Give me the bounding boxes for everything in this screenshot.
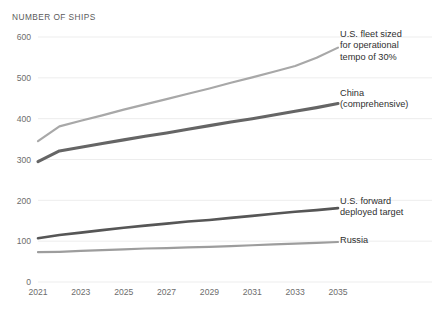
- x-tick-label-2023: 2023: [71, 287, 90, 297]
- series-label-us-fleet-line2: for operational: [340, 40, 402, 51]
- series-label-us-forward-deployed: U.S. forward deployed target: [340, 196, 403, 219]
- y-axis-tick-labels: 0100200300400500600: [17, 32, 32, 287]
- y-tick-label-600: 600: [17, 32, 32, 42]
- y-tick-label-100: 100: [17, 236, 32, 246]
- series-line-2: [38, 208, 338, 238]
- series-label-us-fleet-line3: tempo of 30%: [340, 52, 402, 63]
- x-tick-label-2027: 2027: [157, 287, 176, 297]
- series-label-china-line2: (comprehensive): [340, 99, 408, 110]
- series-label-us-fwd-line1: U.S. forward: [340, 196, 403, 207]
- series-label-us-fleet-line1: U.S. fleet sized: [340, 29, 402, 40]
- x-axis-tick-labels: 20212023202520272029203120332035: [28, 287, 347, 297]
- x-tick-label-2031: 2031: [243, 287, 262, 297]
- y-tick-label-200: 200: [17, 196, 32, 206]
- series-line-1: [38, 104, 338, 162]
- series-label-china-line1: China: [340, 88, 408, 99]
- chart-container: NUMBER OF SHIPS 0100200300400500600 2021…: [0, 0, 432, 310]
- y-tick-label-500: 500: [17, 73, 32, 83]
- x-tick-label-2021: 2021: [28, 287, 47, 297]
- x-tick-label-2033: 2033: [286, 287, 305, 297]
- series-label-china: China (comprehensive): [340, 88, 408, 111]
- x-tick-label-2035: 2035: [328, 287, 347, 297]
- series-label-russia: Russia: [340, 235, 368, 246]
- x-tick-label-2025: 2025: [114, 287, 133, 297]
- x-tick-label-2029: 2029: [200, 287, 219, 297]
- y-tick-label-300: 300: [17, 155, 32, 165]
- series-label-russia-line1: Russia: [340, 235, 368, 246]
- series-line-3: [38, 242, 338, 252]
- y-tick-label-400: 400: [17, 114, 32, 124]
- series-label-us-fleet: U.S. fleet sized for operational tempo o…: [340, 29, 402, 63]
- series-line-0: [38, 48, 338, 142]
- series-label-us-fwd-line2: deployed target: [340, 207, 403, 218]
